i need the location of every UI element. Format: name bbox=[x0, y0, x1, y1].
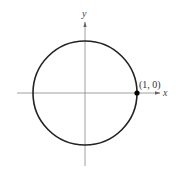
unit-circle-diagram: (1, 0) x y bbox=[0, 0, 176, 171]
point-1-0 bbox=[134, 90, 139, 95]
x-axis-label: x bbox=[162, 87, 168, 98]
point-label: (1, 0) bbox=[139, 79, 161, 91]
y-axis-label: y bbox=[81, 8, 87, 19]
